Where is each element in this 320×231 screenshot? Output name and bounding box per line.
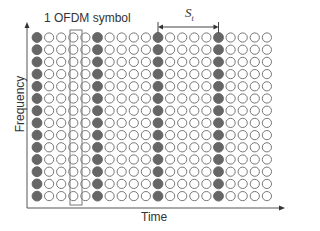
pilot-subcarrier <box>153 81 163 91</box>
data-subcarrier <box>57 33 66 42</box>
pilot-subcarrier <box>32 69 42 79</box>
data-subcarrier <box>117 143 126 152</box>
pilot-subcarrier <box>32 167 42 177</box>
data-subcarrier <box>57 70 66 79</box>
data-subcarrier <box>178 167 187 176</box>
data-subcarrier <box>141 155 150 164</box>
data-subcarrier <box>226 45 235 54</box>
pilot-subcarrier <box>214 94 224 104</box>
data-subcarrier <box>250 94 259 103</box>
data-subcarrier <box>105 192 114 201</box>
data-subcarrier <box>202 82 211 91</box>
data-subcarrier <box>105 82 114 91</box>
data-subcarrier <box>45 106 54 115</box>
data-subcarrier <box>226 143 235 152</box>
data-subcarrier <box>190 179 199 188</box>
data-subcarrier <box>166 57 175 66</box>
data-subcarrier <box>141 106 150 115</box>
data-subcarrier <box>202 45 211 54</box>
data-subcarrier <box>202 179 211 188</box>
pilot-spacing-arrow <box>158 22 219 33</box>
data-subcarrier <box>57 118 66 127</box>
data-subcarrier <box>141 143 150 152</box>
data-subcarrier <box>141 179 150 188</box>
pilot-subcarrier <box>214 106 224 116</box>
pilot-subcarrier <box>153 45 163 55</box>
pilot-subcarrier <box>32 33 42 43</box>
data-subcarrier <box>105 94 114 103</box>
data-subcarrier <box>190 57 199 66</box>
data-subcarrier <box>226 82 235 91</box>
pilot-subcarrier <box>214 142 224 152</box>
pilot-subcarrier <box>214 33 224 43</box>
data-subcarrier <box>129 118 138 127</box>
pilot-subcarrier <box>153 179 163 189</box>
data-subcarrier <box>250 57 259 66</box>
data-subcarrier <box>141 57 150 66</box>
data-subcarrier <box>129 45 138 54</box>
data-subcarrier <box>166 94 175 103</box>
data-subcarrier <box>226 155 235 164</box>
data-subcarrier <box>262 33 271 42</box>
pilot-subcarrier <box>93 81 103 91</box>
data-subcarrier <box>262 70 271 79</box>
data-subcarrier <box>166 179 175 188</box>
data-subcarrier <box>238 70 247 79</box>
data-subcarrier <box>117 106 126 115</box>
data-subcarrier <box>57 131 66 140</box>
data-subcarrier <box>141 94 150 103</box>
data-subcarrier <box>178 82 187 91</box>
pilot-subcarrier <box>32 81 42 91</box>
pilot-subcarrier <box>214 57 224 67</box>
pilot-subcarrier <box>153 167 163 177</box>
data-subcarrier <box>129 143 138 152</box>
pilot-subcarrier <box>153 94 163 104</box>
data-subcarrier <box>57 94 66 103</box>
data-subcarrier <box>129 106 138 115</box>
data-subcarrier <box>117 179 126 188</box>
data-subcarrier <box>202 118 211 127</box>
data-subcarrier <box>262 118 271 127</box>
data-subcarrier <box>238 167 247 176</box>
data-subcarrier <box>190 94 199 103</box>
data-subcarrier <box>166 106 175 115</box>
pilot-subcarrier <box>93 33 103 43</box>
data-subcarrier <box>250 33 259 42</box>
data-subcarrier <box>238 57 247 66</box>
pilot-subcarrier <box>153 191 163 201</box>
pilot-subcarrier <box>32 179 42 189</box>
pilot-subcarrier <box>93 167 103 177</box>
data-subcarrier <box>166 70 175 79</box>
data-subcarrier <box>105 33 114 42</box>
data-subcarrier <box>178 57 187 66</box>
pilot-subcarrier <box>153 57 163 67</box>
pilot-subcarrier <box>153 33 163 43</box>
pilot-subcarrier <box>153 130 163 140</box>
data-subcarrier <box>238 179 247 188</box>
data-subcarrier <box>141 118 150 127</box>
ofdm-symbol-label: 1 OFDM symbol <box>44 11 131 25</box>
pilot-subcarrier <box>153 118 163 128</box>
pilot-subcarrier <box>32 45 42 55</box>
data-subcarrier <box>129 131 138 140</box>
data-subcarrier <box>190 70 199 79</box>
pilot-subcarrier <box>153 142 163 152</box>
pilot-subcarrier <box>214 81 224 91</box>
data-subcarrier <box>57 179 66 188</box>
data-subcarrier <box>262 57 271 66</box>
data-subcarrier <box>141 131 150 140</box>
data-subcarrier <box>238 155 247 164</box>
data-subcarrier <box>202 106 211 115</box>
data-subcarrier <box>226 167 235 176</box>
data-subcarrier <box>202 33 211 42</box>
data-subcarrier <box>45 94 54 103</box>
data-subcarrier <box>105 57 114 66</box>
data-subcarrier <box>178 70 187 79</box>
data-subcarrier <box>45 82 54 91</box>
data-subcarrier <box>45 45 54 54</box>
data-subcarrier <box>190 106 199 115</box>
pilot-subcarrier <box>153 69 163 79</box>
resource-grid <box>32 33 271 201</box>
pilot-subcarrier <box>32 130 42 140</box>
pilot-subcarrier <box>214 179 224 189</box>
